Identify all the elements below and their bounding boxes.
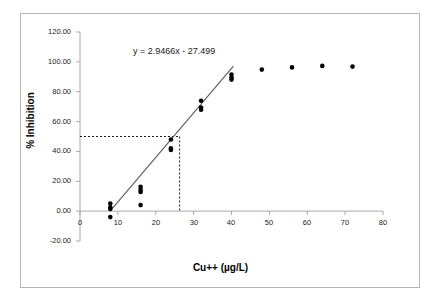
data-point [138, 203, 143, 208]
data-point [229, 72, 234, 77]
data-point [169, 137, 174, 142]
data-point [260, 67, 265, 72]
data-point [199, 105, 204, 110]
y-axis-title: % Inhibition [25, 61, 36, 181]
data-point [290, 65, 295, 70]
chart-screenshot: 120.00 100.00 80.00 60.00 40.00 20.00 0.… [0, 0, 441, 302]
data-point [199, 99, 204, 104]
x-tick-label: 10 [108, 219, 128, 227]
data-point [350, 64, 355, 69]
x-tick-label: 80 [373, 219, 393, 227]
x-tick-label: 0 [70, 219, 90, 227]
x-tick-label: 50 [259, 219, 279, 227]
y-axis-ticks [76, 32, 80, 241]
x-axis-ticks [80, 211, 383, 215]
x-axis-title: Cu++ (µg/L) [0, 262, 441, 273]
x-tick-label: 70 [335, 219, 355, 227]
x-tick-label: 20 [146, 219, 166, 227]
x-tick-label: 40 [221, 219, 241, 227]
linear-regression-line [112, 66, 233, 209]
data-point [320, 64, 325, 69]
x-tick-label: 60 [297, 219, 317, 227]
y-tick-label: -20.00 [29, 237, 71, 245]
data-point [169, 146, 174, 151]
y-tick-label: 0.00 [29, 207, 71, 215]
plot-canvas [21, 14, 419, 287]
data-point-group [108, 64, 355, 220]
data-point [138, 185, 143, 190]
x-tick-label: 30 [184, 219, 204, 227]
regression-equation-label: y = 2.9466x - 27.499 [133, 46, 215, 56]
data-point [108, 201, 113, 206]
chart-frame: 120.00 100.00 80.00 60.00 40.00 20.00 0.… [20, 13, 420, 288]
y-tick-label: 120.00 [29, 28, 71, 36]
